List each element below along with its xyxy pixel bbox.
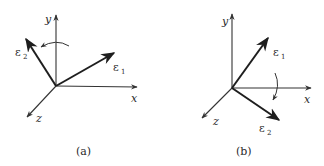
- z-label-a: z: [35, 112, 42, 125]
- caption-a: (a): [76, 145, 91, 158]
- svg-text:1: 1: [281, 53, 285, 61]
- polarization-vectors-figure: y x z ε 2 ε 1 (a) y x z ε 1 ε 2 (b): [0, 0, 324, 166]
- x-label-a: x: [131, 92, 138, 105]
- svg-text:ε: ε: [259, 122, 265, 135]
- x-label-b: x: [304, 93, 311, 106]
- rotation-arrow-a: [41, 42, 69, 47]
- svg-text:ε: ε: [15, 46, 21, 59]
- svg-text:2: 2: [23, 53, 27, 61]
- epsilon2-vector-a: [26, 39, 56, 86]
- epsilon1-vector-a: [56, 53, 114, 86]
- svg-text:ε: ε: [113, 61, 119, 74]
- panel-b: y x z ε 1 ε 2 (b): [202, 14, 311, 158]
- x-axis-a: [56, 86, 137, 87]
- epsilon1-label-a: ε 1: [113, 61, 125, 76]
- epsilon1-label-b: ε 1: [273, 46, 285, 61]
- epsilon2-label-a: ε 2: [15, 46, 27, 61]
- z-axis-b: [202, 88, 232, 118]
- y-label-a: y: [44, 13, 52, 26]
- epsilon2-vector-b: [232, 88, 279, 120]
- svg-text:ε: ε: [273, 46, 279, 59]
- epsilon2-label-b: ε 2: [259, 122, 271, 137]
- svg-text:1: 1: [121, 68, 125, 76]
- y-label-b: y: [221, 15, 229, 28]
- svg-text:2: 2: [267, 129, 271, 137]
- caption-b: (b): [236, 145, 252, 158]
- epsilon1-vector-b: [232, 38, 268, 88]
- z-label-b: z: [212, 115, 219, 128]
- panel-a: y x z ε 2 ε 1 (a): [15, 13, 138, 158]
- rotation-arrow-b: [273, 73, 278, 100]
